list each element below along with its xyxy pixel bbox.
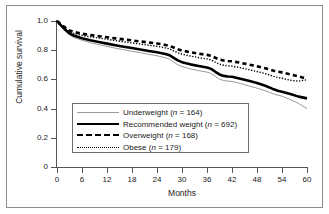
y-tick-label: 0.2 [37, 134, 48, 142]
y-axis-title: Cumulative survival [14, 17, 24, 117]
legend-item-label: Overweight (n = 168) [123, 131, 198, 140]
x-tick [157, 168, 158, 173]
legend-line-sample-icon [77, 119, 119, 129]
y-tick [51, 109, 56, 110]
x-tick [182, 168, 183, 173]
legend-item-label: Recommended weight (n = 692) [123, 120, 237, 129]
legend: Underweight (n = 164)Recommended weight … [72, 103, 249, 153]
x-tick-label: 12 [95, 175, 119, 184]
legend-line-sample-icon [77, 142, 119, 152]
x-tick [132, 168, 133, 173]
legend-item-label: Underweight (n = 164) [123, 108, 202, 117]
x-tick-label: 0 [45, 175, 69, 184]
legend-item: Obese (n = 179) [77, 142, 244, 154]
x-tick [82, 168, 83, 173]
x-tick-label: 30 [170, 175, 194, 184]
y-tick-label: 0 [44, 163, 48, 171]
x-tick [107, 168, 108, 173]
x-tick-label: 60 [295, 175, 319, 184]
y-tick [51, 21, 56, 22]
x-tick-label: 42 [220, 175, 244, 184]
x-tick-label: 24 [145, 175, 169, 184]
y-axis-line [56, 20, 57, 168]
y-tick [51, 167, 56, 168]
legend-line-sample-icon [77, 108, 119, 118]
y-tick [51, 79, 56, 80]
y-tick [51, 50, 56, 51]
x-tick [232, 168, 233, 173]
x-tick-label: 48 [245, 175, 269, 184]
legend-line-sample-icon [77, 131, 119, 141]
x-tick [257, 168, 258, 173]
survival-chart-figure: 00.20.40.60.81.0 06121824303642485460 Mo… [0, 0, 329, 214]
legend-item: Underweight (n = 164) [77, 107, 244, 119]
y-tick-label: 0.8 [37, 46, 48, 54]
x-axis-title: Months [57, 188, 307, 198]
y-tick-label: 0.6 [37, 75, 48, 83]
x-tick [282, 168, 283, 173]
x-tick [57, 168, 58, 173]
x-tick [207, 168, 208, 173]
x-tick-label: 36 [195, 175, 219, 184]
legend-item-label: Obese (n = 179) [123, 143, 181, 152]
legend-item: Recommended weight (n = 692) [77, 119, 244, 131]
x-tick-label: 6 [70, 175, 94, 184]
y-tick [51, 138, 56, 139]
y-tick-label: 0.4 [37, 105, 48, 113]
x-tick [307, 168, 308, 173]
x-tick-label: 54 [270, 175, 294, 184]
x-tick-label: 18 [120, 175, 144, 184]
legend-item: Overweight (n = 168) [77, 130, 244, 142]
y-tick-label: 1.0 [37, 17, 48, 25]
